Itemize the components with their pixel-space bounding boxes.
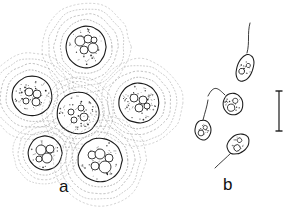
zoospore-upper [233, 23, 257, 84]
panel-label-a: a [59, 178, 68, 195]
figure-drawing [0, 0, 302, 207]
cell-right [96, 58, 183, 146]
panel-b [195, 23, 283, 168]
zoospore-middle [208, 88, 245, 116]
zoospore-lower [215, 130, 253, 168]
flagellum [215, 152, 232, 168]
figure-root: a b [0, 0, 302, 207]
flagellum [247, 23, 250, 53]
panel-a [0, 3, 183, 206]
scale-bar [276, 91, 283, 131]
zoospore-body [195, 120, 211, 140]
cell-wall [78, 138, 122, 181]
flagellum [208, 88, 225, 96]
cell-top [42, 3, 131, 92]
cell-wall [12, 76, 52, 116]
zoospore-left [195, 100, 211, 140]
zoospore-body [223, 130, 253, 158]
zoospore-body [221, 92, 244, 117]
flagellum [203, 100, 208, 120]
panel-label-b: b [223, 176, 232, 193]
zoospore-body [233, 52, 257, 84]
